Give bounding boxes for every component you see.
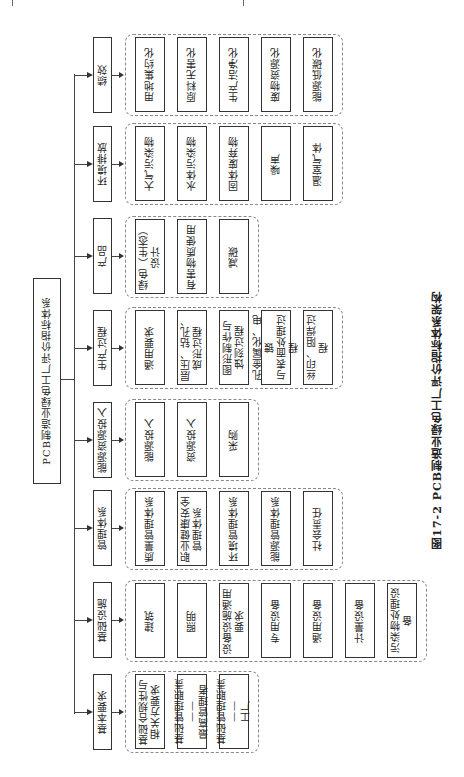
top-edge-mark [243,0,244,6]
subitem-box: 建筑 [135,583,165,658]
arrow-icon [119,525,124,531]
subitem-box: 废物资源化 [261,37,291,112]
category-label: 绩效 [97,64,109,86]
category-label: 生产过程 [97,326,109,370]
subitem-box: 丝印、阻焊过程 [303,310,333,385]
trunk-line [74,74,75,714]
branch-line [74,75,87,76]
arrow-icon [119,617,124,623]
subitem-box: 层压、钻孔、 成形过程 [177,310,207,385]
subitem-box: 基础管理职责—— 工厂 [219,674,249,749]
subitem-box: 减碳 [219,219,249,294]
subitem-label: 层压、钻孔、 成形过程 [180,315,204,381]
group-connector [112,528,119,529]
subitem-label: 社会责任 [312,507,324,551]
category-box-performance: 绩效 [93,37,112,113]
subitem-label: 图形制作与 蚀刻过程 [222,320,246,375]
category-box-product: 产品 [93,218,112,294]
arrow-icon [119,345,124,351]
subitem-label: 建筑 [144,610,156,632]
group-connector [112,348,119,349]
branch-line [74,712,87,713]
group-connector [112,440,119,441]
subitem-label: 通用要求 [144,326,156,370]
group-connector [112,620,119,621]
category-box-infrastructure: 基础设施 [93,582,112,658]
subitem-box: 能源投入 [135,402,165,477]
subitem-box: 环境管理体系 [219,491,249,566]
subitem-label: 专用设备 [270,599,282,643]
category-label: 能源资源投入 [97,407,109,473]
subitem-box: 照明 [177,583,207,658]
subitem-label: 基础合规性与 相关方要求 [138,679,162,745]
subitem-label: 设备设施通用 要求 [222,588,246,654]
top-edge-mark [12,0,13,6]
subitem-label: 大气污染物 [144,136,156,191]
subitem-box: 温室气体 [303,126,333,201]
root-connector [61,379,75,380]
subitem-box: 采购 [219,402,249,477]
group-connector [112,712,119,713]
subitem-label: 环境管理体系 [228,496,240,562]
subitem-label: 采购 [228,429,240,451]
subitem-box: 水体污染物 [177,126,207,201]
subitem-label: 污染物处理设备 [390,584,414,657]
subitem-label: 有害物质使用 [186,224,198,290]
category-box-emissions: 环境排放 [93,126,112,202]
subitem-box: 孔金属化、电镀 与表面处理过程 [261,310,291,385]
branch-line [74,348,87,349]
branch-line [74,164,87,165]
category-label: 基本要求 [97,690,109,734]
subitem-label: 废物资源化 [270,47,282,102]
category-box-management-system: 管理体系 [93,490,112,566]
subitem-label: 绿色（生态） 设计 [138,224,162,290]
subitem-label: 基础管理职责—— 工厂 [216,675,252,748]
subitem-label: 水体污染物 [186,136,198,191]
caption-text: 图17-2 PCB制造业绿色工厂评价指标体系架构 [432,291,444,549]
arrow-icon [119,437,124,443]
subitem-box: 能源管理体系 [261,491,291,566]
subitem-box: 基础管理职责—— 最高管理者 [177,674,207,749]
figure-caption: 图17-2 PCB制造业绿色工厂评价指标体系架构 [428,270,448,570]
arrow-icon [119,709,124,715]
subitem-box: 质量管理体系 [135,491,165,566]
category-box-energy-resource-input: 能源资源投入 [93,402,112,478]
subitem-box: 基础合规性与 相关方要求 [135,674,165,749]
arrow-icon [119,72,124,78]
subitem-box: 计量设备 [345,583,375,658]
subitem-label: 能源管理体系 [270,496,282,562]
subitem-box: 社会责任 [303,491,333,566]
group-connector [112,256,119,257]
subitem-box: 大气污染物 [135,126,165,201]
subitem-box: 职业健康安全 管理体系 [177,491,207,566]
subitem-label: 资源投入 [186,418,198,462]
subitem-label: 固体废弃物 [228,136,240,191]
subitem-label: 丝印、阻焊过程 [306,311,330,384]
subitem-box: 专用设备 [261,583,291,658]
group-connector [112,75,119,76]
subitem-box: 图形制作与 蚀刻过程 [219,310,249,385]
subitem-label: 生产洁净化 [228,47,240,102]
group-connector [112,164,119,165]
subitem-label: 噪声 [270,153,282,175]
subitem-label: 减碳 [228,246,240,268]
category-box-basic-requirements: 基本要求 [93,674,112,750]
arrow-icon [119,161,124,167]
subitem-box: 绿色（生态） 设计 [135,219,165,294]
branch-line [74,528,87,529]
category-label: 产品 [97,245,109,267]
subitem-label: 孔金属化、电镀 与表面处理过程 [252,311,300,384]
category-box-production-process: 生产过程 [93,310,112,386]
subitem-label: 通用设备 [312,599,324,643]
subitem-label: 温室气体 [312,142,324,186]
subitem-label: 照明 [186,610,198,632]
category-label: 管理体系 [97,506,109,550]
subitem-box: 生产洁净化 [219,37,249,112]
subitem-box: 原料无害化 [177,37,207,112]
subitem-label: 质量管理体系 [144,496,156,562]
subitem-box: 用地集约化 [135,37,165,112]
category-label: 基础设施 [97,598,109,642]
subitem-label: 职业健康安全 管理体系 [180,496,204,562]
root-label: PCB制造业绿色工厂评价指标体系 [41,297,53,465]
branch-line [74,256,87,257]
